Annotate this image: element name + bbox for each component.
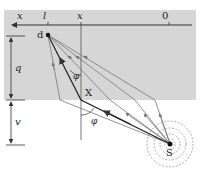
source-label: S (166, 148, 173, 158)
axis-label-l: l (43, 11, 46, 21)
axis-label-x-left: x (17, 11, 23, 21)
detector-point (46, 33, 50, 37)
dimension-q-label: q (15, 63, 21, 73)
source-point (168, 142, 173, 147)
diagram-canvas (0, 0, 206, 179)
angle-upper-label: φ (73, 72, 79, 81)
axis-label-origin: 0 (162, 11, 168, 21)
shaded-region (4, 10, 196, 100)
detector-label: d (37, 30, 43, 40)
angle-lower-label: φ (91, 117, 97, 126)
reflection-label: X (85, 88, 92, 98)
diagram: x l x 0 d X S q v φ φ (0, 0, 206, 179)
axis-label-x: x (77, 11, 83, 21)
dimension-v-label: v (15, 117, 21, 127)
